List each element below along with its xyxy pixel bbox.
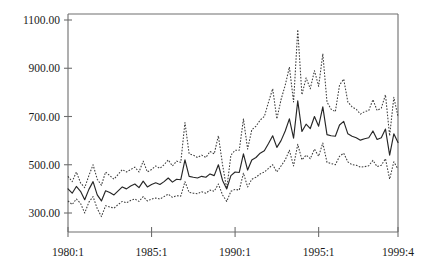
axis-frame [68, 14, 398, 232]
x-tick-label: 1999:4 [382, 246, 414, 258]
x-tick-label: 1995:1 [303, 246, 335, 258]
x-tick-label: 1985:1 [136, 246, 168, 258]
timeseries-chart: 300.00500.00700.00900.001100.00 1980:119… [0, 0, 430, 278]
y-tick-label: 900.00 [28, 62, 60, 74]
chart-container: 300.00500.00700.00900.001100.00 1980:119… [0, 0, 430, 278]
y-axis-tick-labels: 300.00500.00700.00900.001100.00 [23, 14, 60, 219]
series-line-lower-band [68, 143, 398, 217]
data-series-group [68, 30, 398, 217]
series-line-forecast-mean [68, 101, 398, 201]
y-tick-label: 500.00 [28, 159, 60, 171]
y-tick-label: 700.00 [28, 111, 60, 123]
y-tick-label: 1100.00 [23, 14, 60, 26]
x-tick-label: 1990:1 [219, 246, 251, 258]
x-tick-label: 1980:1 [52, 246, 84, 258]
x-axis-tick-labels: 1980:11985:11990:11995:11999:4 [52, 246, 414, 258]
axis-tick-marks [64, 20, 398, 237]
series-line-upper-band [68, 30, 398, 189]
y-tick-label: 300.00 [28, 207, 60, 219]
